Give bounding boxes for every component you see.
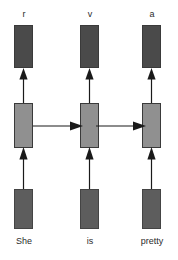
input-to-hidden-arrow-2: [146, 147, 157, 190]
hidden-to-output-arrow-2: [146, 68, 157, 104]
output-state-box-2: [142, 25, 161, 68]
word-label-2: pretty: [122, 236, 178, 247]
output-label-0: r: [0, 9, 54, 19]
word-label-0: She: [0, 236, 54, 247]
input-embedding-box-2: [142, 189, 161, 229]
recurrent-arrow-0: [33, 119, 83, 133]
hidden-to-output-arrow-1: [84, 68, 95, 104]
input-embedding-box-1: [80, 189, 99, 229]
hidden-state-box-0: [14, 103, 33, 148]
input-to-hidden-arrow-1: [84, 147, 95, 190]
output-state-box-1: [80, 25, 99, 68]
rnn-sequence-diagram: r She v: [0, 0, 178, 260]
word-label-1: is: [60, 236, 120, 247]
output-label-2: a: [122, 9, 178, 19]
input-embedding-box-0: [14, 189, 33, 229]
recurrent-arrow-1: [96, 119, 146, 133]
output-state-box-0: [14, 25, 33, 68]
hidden-to-output-arrow-0: [18, 68, 29, 104]
input-to-hidden-arrow-0: [18, 147, 29, 190]
output-label-1: v: [60, 9, 120, 19]
